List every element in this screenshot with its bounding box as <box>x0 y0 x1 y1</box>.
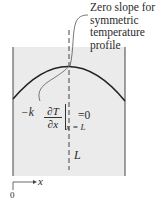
annotation-line-3: temperature <box>90 26 155 39</box>
derivative-fraction: ∂T ∂x <box>44 105 62 130</box>
equation-subscript: x = L <box>66 122 86 132</box>
fraction-denominator: ∂x <box>44 118 62 130</box>
length-label: L <box>74 148 81 163</box>
origin-label: 0 <box>10 190 15 200</box>
equation-equals-zero: =0 <box>78 109 90 121</box>
x-axis-arrow-icon <box>33 180 37 184</box>
x-axis-label: x <box>38 175 43 187</box>
annotation-line-1: Zero slope for <box>90 1 155 14</box>
equation-prefix: −k <box>21 106 34 118</box>
annotation-line-2: symmetric <box>90 14 155 27</box>
zero-slope-annotation: Zero slope for symmetric temperature pro… <box>90 1 155 51</box>
annotation-line-4: profile <box>90 39 155 52</box>
fraction-numerator: ∂T <box>44 105 62 118</box>
